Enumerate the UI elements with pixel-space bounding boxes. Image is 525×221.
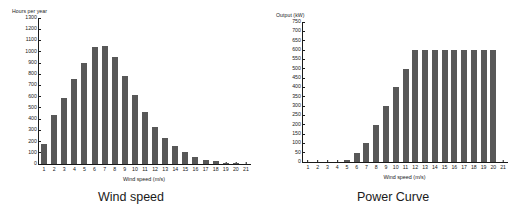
y-axis-tick-label: 1100 (26, 37, 37, 43)
y-axis-tick: 300 (28, 128, 39, 133)
x-axis-tick: 8 (375, 162, 378, 170)
bar (142, 112, 148, 164)
x-axis-tick-label: 16 (451, 165, 457, 170)
x-axis-tick-label: 9 (123, 167, 126, 172)
bar (412, 50, 418, 162)
x-axis-tick: 13 (422, 162, 428, 170)
y-axis-tick-label: 600 (292, 46, 301, 52)
bar (92, 47, 98, 164)
caption-power-curve: Power Curve (262, 190, 524, 205)
y-axis-tick: 550 (292, 57, 303, 62)
y-axis-tick-label: 750 (292, 18, 301, 24)
y-axis-tick: 1200 (25, 27, 39, 32)
x-axis-tick-label: 19 (223, 167, 229, 172)
y-axis-tick: 450 (292, 75, 303, 80)
y-axis-tick: 900 (28, 60, 39, 65)
y-axis-tick: 700 (292, 29, 303, 34)
x-axis-tick-label: 17 (461, 165, 467, 170)
y-axis-tick: 750 (292, 19, 303, 24)
y-axis-tick-mark (303, 96, 305, 97)
bar (344, 160, 350, 162)
bar (490, 50, 496, 162)
y-axis-tick: 1100 (26, 38, 39, 43)
bar (223, 163, 229, 164)
y-axis-tick: 350 (292, 94, 303, 99)
x-axis-tick-label: 10 (132, 167, 138, 172)
y-axis-tick-label: 550 (292, 56, 301, 62)
chart-power-curve: Output (kW) 0501001502002503003504004505… (262, 0, 524, 185)
x-axis-tick: 21 (243, 164, 249, 172)
bar (51, 115, 57, 164)
x-axis-tick: 7 (365, 162, 368, 170)
bar (132, 95, 138, 164)
bar (471, 50, 477, 162)
bar (162, 138, 168, 164)
bar (422, 50, 428, 162)
y-axis-tick-mark (39, 51, 41, 52)
bar (152, 127, 158, 164)
y-axis-tick: 600 (292, 47, 303, 52)
y-axis-tick-label: 0 (34, 160, 37, 166)
x-axis-tick-label: 6 (93, 167, 96, 172)
y-axis-tick-mark (303, 68, 305, 69)
y-axis-tick: 600 (28, 94, 39, 99)
x-axis-tick-label: 7 (103, 167, 106, 172)
y-axis-tick-mark (303, 106, 305, 107)
x-axis-tick: 3 (326, 162, 329, 170)
x-axis-tick-mark (246, 162, 247, 164)
x-axis-tick-label: 5 (83, 167, 86, 172)
y-axis-tick-mark (39, 40, 41, 41)
x-axis-tick-label: 11 (403, 165, 408, 170)
x-axis-tick-label: 17 (203, 167, 209, 172)
x-axis-tick: 7 (103, 164, 106, 172)
x-axis-tick: 19 (223, 164, 229, 172)
x-axis-tick: 14 (172, 164, 178, 172)
bar (354, 153, 360, 162)
bar (442, 50, 448, 162)
y-axis-tick-mark (303, 134, 305, 135)
x-axis-tick-mark (337, 160, 338, 162)
y-axis-tick-label: 0 (298, 158, 301, 164)
bar (461, 50, 467, 162)
y-axis-tick: 500 (28, 105, 39, 110)
x-axis-tick-label: 10 (393, 165, 399, 170)
y-axis-tick-label: 500 (292, 65, 301, 71)
y-axis-tick-label: 600 (28, 93, 37, 99)
y-axis-tick-mark (39, 74, 41, 75)
x-axis-tick-mark (327, 160, 328, 162)
x-axis-tick: 2 (316, 162, 319, 170)
y-axis-tick-label: 800 (28, 71, 37, 77)
y-axis-tick-mark (39, 141, 41, 142)
bar (122, 76, 128, 164)
y-axis-tick-label: 200 (28, 138, 37, 144)
x-axis-tick-label: 15 (442, 165, 448, 170)
x-axis-tick: 18 (213, 164, 219, 172)
y-axis-tick-mark (303, 162, 305, 163)
x-axis-tick: 6 (355, 162, 358, 170)
x-axis-tick-label: 13 (422, 165, 428, 170)
y-axis-tick-mark (303, 22, 305, 23)
x-axis-title-wind-speed: Wind speed (m/s) (302, 174, 507, 180)
y-axis-title-output-kw: Output (kW) (276, 12, 305, 18)
x-axis-tick-label: 16 (193, 167, 199, 172)
x-axis-tick-label: 7 (365, 165, 368, 170)
y-axis-tick-label: 50 (295, 149, 301, 155)
y-axis-tick: 150 (292, 131, 303, 136)
y-axis-tick: 100 (28, 150, 39, 155)
bar (182, 152, 188, 164)
x-axis-title-wind-speed: Wind speed (m/s) (38, 176, 250, 182)
x-axis-tick-label: 1 (306, 165, 309, 170)
x-axis-tick: 18 (471, 162, 477, 170)
x-axis-tick: 21 (500, 162, 506, 170)
y-axis-tick: 200 (28, 139, 39, 144)
y-axis-tick: 50 (295, 150, 303, 155)
y-axis-tick-mark (39, 63, 41, 64)
x-axis-tick-label: 18 (471, 165, 477, 170)
y-axis-tick-label: 700 (28, 82, 37, 88)
bar (383, 106, 389, 162)
y-axis-tick: 400 (292, 85, 303, 90)
y-axis-tick: 1000 (25, 49, 39, 54)
y-axis-tick-mark (39, 29, 41, 30)
bar (403, 69, 409, 162)
bar (363, 143, 369, 162)
